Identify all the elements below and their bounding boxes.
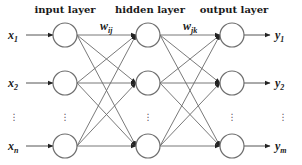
- input-node-ellipsis: ⋮: [61, 112, 70, 122]
- output-node-ellipsis: ⋮: [228, 112, 237, 122]
- svg-text:wjk: wjk: [183, 19, 197, 35]
- svg-text:x2: x2: [7, 76, 18, 92]
- svg-text:xn: xn: [7, 139, 19, 155]
- input-label-ellipsis: ⋮: [10, 112, 19, 122]
- hidden-layer-nodes: [136, 23, 160, 158]
- output-layer-label: output layer: [200, 4, 269, 15]
- input-label-2-sub: 2: [13, 83, 18, 92]
- hidden-node-last: [136, 134, 160, 158]
- ellipsis-markers: ⋮ ⋮ ⋮ ⋮ ⋮: [10, 112, 288, 122]
- weight-ij-sub: ij: [108, 26, 113, 35]
- output-node-m: [220, 134, 244, 158]
- svg-text:y2: y2: [273, 76, 284, 92]
- svg-text:x1: x1: [7, 28, 18, 44]
- hidden-node-1: [136, 23, 160, 47]
- hidden-node-2: [136, 71, 160, 95]
- hidden-output-connections: [160, 35, 220, 146]
- input-labels: x1 x2 xn: [7, 28, 19, 155]
- input-label-1-base: x: [7, 28, 14, 42]
- input-layer-label: input layer: [34, 4, 96, 15]
- input-node-2: [53, 71, 77, 95]
- output-label-1-sub: 1: [280, 35, 284, 44]
- input-label-1-sub: 1: [14, 35, 18, 44]
- input-node-1: [53, 23, 77, 47]
- hidden-layer-label: hidden layer: [115, 4, 186, 15]
- output-label-ellipsis: ⋮: [279, 112, 288, 122]
- svg-text:wij: wij: [100, 19, 113, 35]
- input-label-2-base: x: [7, 76, 14, 90]
- input-node-n: [53, 134, 77, 158]
- weight-jk-sub: jk: [189, 26, 197, 35]
- input-layer-nodes: [53, 23, 77, 158]
- input-arrows: [26, 35, 53, 146]
- output-labels: y1 y2 ym: [273, 28, 287, 155]
- output-node-2: [220, 71, 244, 95]
- svg-text:y1: y1: [273, 28, 284, 44]
- hidden-node-ellipsis: ⋮: [144, 112, 153, 122]
- output-label-2-sub: 2: [279, 83, 284, 92]
- output-arrows: [244, 35, 270, 146]
- neural-network-diagram: input layer hidden layer output layer: [0, 0, 302, 165]
- input-label-n-base: x: [7, 139, 14, 153]
- output-layer-nodes: [220, 23, 244, 158]
- input-label-n-sub: n: [14, 146, 19, 155]
- output-node-1: [220, 23, 244, 47]
- output-label-m-sub: m: [280, 146, 286, 155]
- svg-text:ym: ym: [273, 139, 287, 155]
- input-hidden-connections: [77, 35, 136, 146]
